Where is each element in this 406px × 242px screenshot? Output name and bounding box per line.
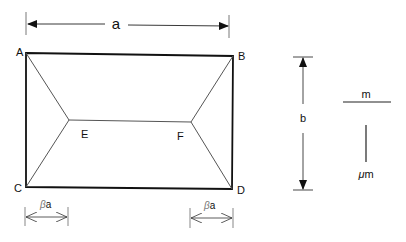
width-label: a bbox=[112, 15, 121, 32]
point-label-f: F bbox=[177, 130, 184, 142]
dimension-a: a bbox=[26, 12, 229, 38]
m-symbol: m bbox=[364, 168, 373, 180]
corner-label-a: A bbox=[16, 46, 24, 58]
svg-text:βa: βa bbox=[203, 200, 216, 211]
height-label: b bbox=[300, 112, 306, 124]
corner-label-c: C bbox=[14, 182, 22, 194]
svg-text:βa: βa bbox=[39, 199, 52, 210]
yield-lines bbox=[26, 53, 233, 189]
corner-label-b: B bbox=[238, 50, 245, 62]
mu-symbol: μ bbox=[357, 168, 364, 180]
moment-legend: m μm bbox=[343, 88, 391, 180]
a-symbol: a bbox=[210, 200, 216, 211]
yield-line-diagram: a A B C D E F βa βa bbox=[0, 0, 406, 242]
corner-label-d: D bbox=[237, 184, 245, 196]
dimension-beta-a-right: βa bbox=[190, 200, 233, 228]
moment-m-label: m bbox=[361, 88, 370, 100]
svg-text:μm: μm bbox=[357, 168, 373, 180]
dimension-beta-a-left: βa bbox=[25, 199, 68, 226]
dimension-b: b bbox=[293, 57, 313, 190]
point-label-e: E bbox=[81, 128, 88, 140]
a-symbol: a bbox=[46, 199, 52, 210]
